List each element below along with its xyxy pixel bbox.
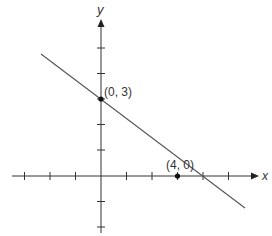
graph-line bbox=[41, 54, 245, 208]
x-axis-arrow-icon bbox=[251, 173, 259, 180]
point-4-0-label: (4, 0) bbox=[166, 158, 194, 172]
y-axis-arrow-icon bbox=[98, 19, 105, 27]
point-0-3 bbox=[98, 96, 103, 101]
y-axis-label: y bbox=[96, 2, 105, 17]
x-axis-label: x bbox=[261, 169, 269, 183]
coordinate-graph: (0, 3) (4, 0) x y bbox=[0, 0, 272, 236]
point-4-0 bbox=[175, 173, 180, 178]
point-0-3-label: (0, 3) bbox=[104, 85, 132, 99]
